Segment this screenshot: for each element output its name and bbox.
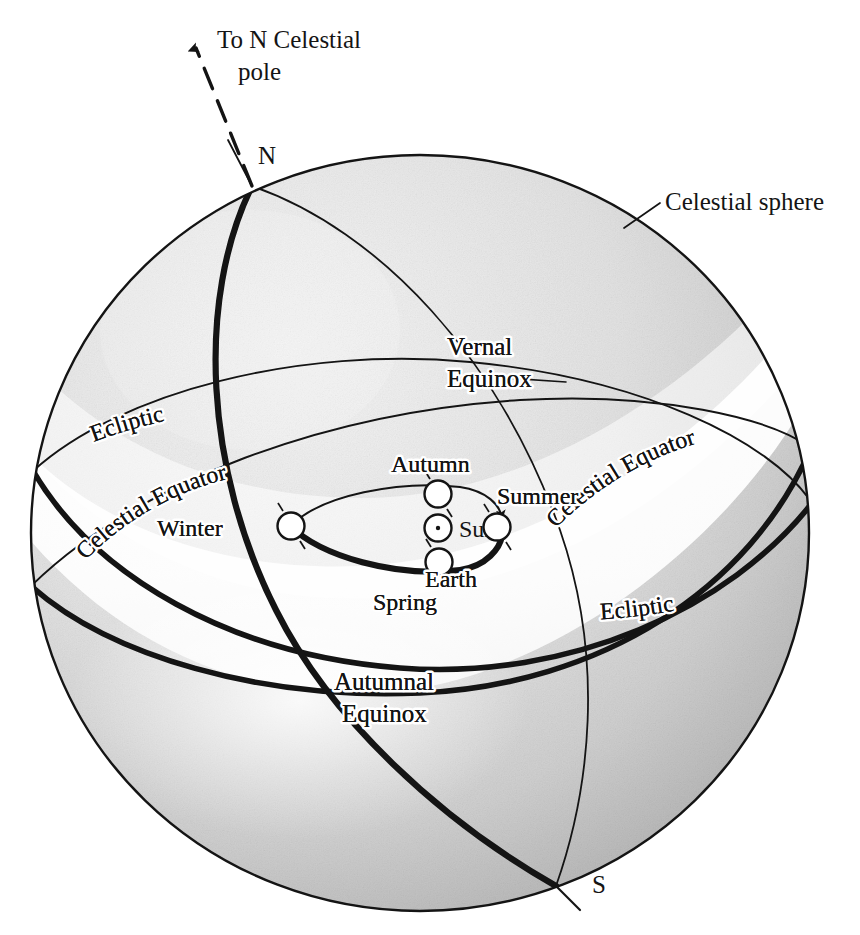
celestial-sphere-diagram: N S To N Celestial pole Celestial sphere… bbox=[0, 0, 860, 935]
sun-center-dot bbox=[436, 526, 440, 530]
earth-disc-summer bbox=[484, 514, 511, 541]
celestial-sphere-body bbox=[28, 155, 812, 911]
sphere-highlight bbox=[70, 560, 530, 840]
south-pole-axis-stub bbox=[556, 886, 580, 910]
spring-label: Spring bbox=[373, 589, 437, 615]
summer-label: Summer bbox=[497, 483, 578, 509]
diagram-canvas: N S To N Celestial pole Celestial sphere… bbox=[0, 0, 860, 935]
autumnal-equinox-label-line1: Autumnal bbox=[334, 668, 434, 695]
vernal-equinox-label-line1: Vernal bbox=[447, 333, 512, 360]
north-celestial-pole-label-line2: pole bbox=[238, 58, 281, 85]
south-pole-label: S bbox=[592, 871, 606, 898]
vernal-equinox-label-line2: Equinox bbox=[447, 365, 532, 392]
north-pole-leader bbox=[228, 140, 252, 186]
earth-disc-winter bbox=[278, 513, 305, 540]
autumn-label: Autumn bbox=[391, 451, 470, 477]
autumnal-equinox-label-line2: Equinox bbox=[342, 700, 427, 727]
winter-label: Winter bbox=[157, 515, 223, 541]
sun-marker bbox=[425, 515, 452, 542]
celestial-sphere-label: Celestial sphere bbox=[665, 188, 824, 215]
earth-disc-autumn bbox=[425, 481, 452, 508]
earth-label: Earth bbox=[425, 566, 477, 592]
north-celestial-pole-label-line1: To N Celestial bbox=[217, 26, 361, 53]
north-pole-label: N bbox=[258, 142, 276, 169]
